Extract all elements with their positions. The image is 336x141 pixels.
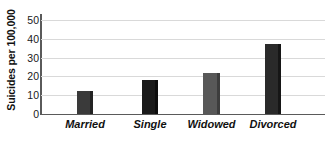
y-tick-label: 0 bbox=[20, 109, 39, 120]
gridline-20 bbox=[41, 76, 325, 77]
x-tick-label-married: Married bbox=[65, 118, 105, 130]
bar-single-edge bbox=[155, 80, 158, 114]
bar-widowed bbox=[203, 73, 220, 114]
bar-married-edge bbox=[90, 91, 93, 114]
gridline-40 bbox=[41, 39, 325, 40]
y-axis-tick-labels: 50 40 30 20 10 0 bbox=[20, 0, 39, 141]
y-tick-label: 50 bbox=[20, 15, 39, 26]
bar-single bbox=[142, 80, 158, 114]
x-axis-baseline bbox=[41, 114, 325, 115]
y-axis-title-label: Suicides per 100,000 bbox=[5, 9, 17, 110]
bar-married bbox=[77, 91, 93, 114]
bar-divorced bbox=[265, 44, 281, 115]
bar-widowed-edge bbox=[217, 73, 220, 114]
gridline-30 bbox=[41, 58, 325, 59]
bar-divorced-edge bbox=[278, 44, 281, 115]
x-axis-tick-labels: Married Single Widowed Divorced bbox=[41, 118, 325, 138]
plot-area bbox=[41, 14, 325, 114]
y-tick-label: 20 bbox=[20, 71, 39, 82]
bar-married-face bbox=[77, 91, 90, 114]
bar-divorced-face bbox=[265, 44, 278, 115]
gridline-50 bbox=[41, 20, 325, 21]
x-tick-label-single: Single bbox=[133, 118, 166, 130]
y-axis-title: Suicides per 100,000 bbox=[0, 0, 22, 120]
bar-single-face bbox=[142, 80, 155, 114]
x-tick-label-divorced: Divorced bbox=[249, 118, 296, 130]
y-tick-label: 30 bbox=[20, 52, 39, 63]
bar-chart: Suicides per 100,000 50 40 30 20 10 0 bbox=[0, 0, 336, 141]
bar-widowed-face bbox=[203, 73, 217, 114]
y-tick-label: 40 bbox=[20, 34, 39, 45]
y-tick-label: 10 bbox=[20, 90, 39, 101]
x-tick-label-widowed: Widowed bbox=[187, 118, 235, 130]
